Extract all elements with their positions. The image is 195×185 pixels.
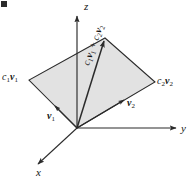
vector-span-figure: z y x c1v1 c2v2 v1 v2 c1v1 + c2v2	[0, 0, 195, 185]
vector-label-c1v1: c1v1	[2, 72, 18, 82]
axis-label-z: z	[84, 1, 88, 12]
vector-label-c2v2: c2v2	[157, 76, 173, 86]
vector-label-v1: v1	[47, 111, 55, 121]
axis-x-line	[38, 128, 77, 164]
vector-label-v2: v2	[127, 98, 135, 108]
axis-label-y: y	[181, 123, 186, 134]
axis-label-x: x	[36, 167, 41, 178]
